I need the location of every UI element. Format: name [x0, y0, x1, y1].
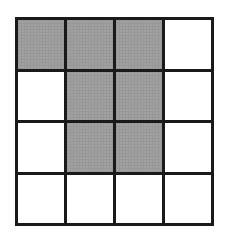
grid-cell-shaded-r1-c1 — [67, 72, 113, 121]
grid-cell-shaded-r2-c1 — [67, 123, 113, 172]
grid-cell-empty-r1-c0 — [18, 72, 64, 121]
grid-cell-shaded-r0-c0 — [18, 20, 64, 69]
grid-cell-empty-r3-c1 — [67, 175, 113, 224]
grid-cell-empty-r1-c3 — [165, 72, 211, 121]
grid-cell-empty-r3-c2 — [116, 175, 162, 224]
grid-cell-empty-r3-c0 — [18, 175, 64, 224]
grid-cell-shaded-r0-c1 — [67, 20, 113, 69]
shaded-grid — [15, 17, 214, 226]
grid-cell-empty-r2-c0 — [18, 123, 64, 172]
grid-cell-empty-r3-c3 — [165, 175, 211, 224]
grid-cell-shaded-r1-c2 — [116, 72, 162, 121]
grid-cell-shaded-r2-c2 — [116, 123, 162, 172]
grid-cell-empty-r2-c3 — [165, 123, 211, 172]
grid-cell-shaded-r0-c2 — [116, 20, 162, 69]
grid-cell-empty-r0-c3 — [165, 20, 211, 69]
